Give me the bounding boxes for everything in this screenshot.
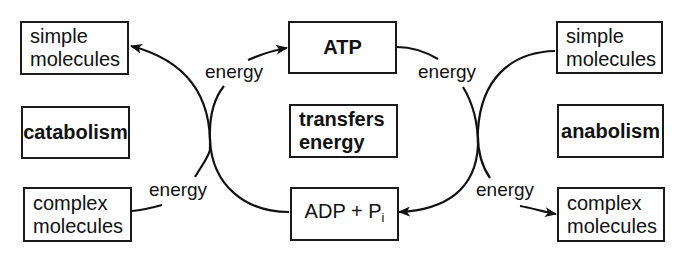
- process-label: catabolism: [23, 121, 128, 144]
- atp-box: ATP: [288, 21, 397, 74]
- catabolism-lower-stub: [195, 150, 210, 177]
- left-simple-molecules-box: simple molecules: [20, 21, 129, 75]
- box-text-line: molecules: [22, 48, 127, 71]
- pi-subscript: i: [382, 210, 385, 225]
- right-simple-molecules-box: simple molecules: [556, 21, 663, 74]
- box-text-line: molecules: [559, 215, 663, 238]
- atp-hydrolysis-stub: [397, 47, 438, 59]
- catabolism-arc-arrow: [131, 46, 210, 150]
- catabolism-bottom-stub: [132, 205, 162, 211]
- transfers-energy-box: transfers energy: [289, 104, 398, 158]
- adp-pi-main: ADP + P: [305, 200, 382, 222]
- energy-label-bottom-right: energy: [476, 180, 534, 200]
- atp-synthesis-arrow: [248, 48, 287, 60]
- box-text-line: energy: [291, 131, 396, 154]
- adp-pi-box: ADP + Pi: [290, 187, 399, 241]
- box-text-line: molecules: [25, 215, 130, 238]
- right-complex-molecules-box: complex molecules: [557, 187, 665, 242]
- catabolism-box: catabolism: [21, 106, 130, 159]
- energy-label-top-left: energy: [205, 62, 263, 82]
- box-text-line: molecules: [558, 48, 661, 71]
- box-text-line: simple: [558, 25, 661, 48]
- box-text-line: complex: [559, 192, 663, 215]
- anabolism-arrow: [520, 206, 556, 214]
- atp-synthesis-arc: [210, 86, 289, 212]
- atp-label: ATP: [290, 36, 395, 59]
- left-complex-molecules-box: complex molecules: [23, 187, 132, 242]
- anabolism-box: anabolism: [557, 104, 664, 158]
- energy-label-top-right: energy: [418, 62, 476, 82]
- adp-pi-label: ADP + Pi: [292, 200, 397, 229]
- process-label: anabolism: [559, 120, 662, 143]
- box-text-line: transfers: [291, 108, 396, 131]
- box-text-line: simple: [22, 25, 127, 48]
- energy-label-bottom-left: energy: [149, 180, 207, 200]
- box-text-line: complex: [25, 192, 130, 215]
- atp-hydrolysis-arc: [399, 87, 478, 212]
- anabolism-arc: [478, 51, 555, 178]
